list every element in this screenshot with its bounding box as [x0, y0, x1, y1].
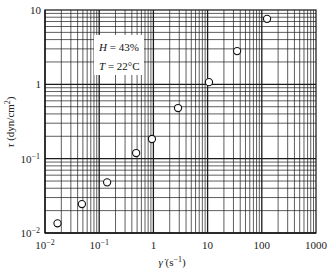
x-tick-label: 10	[202, 239, 214, 251]
x-tick-label: 10−1	[89, 238, 109, 251]
y-tick-label: 1	[36, 78, 42, 90]
x-tick-label: 10−2	[35, 238, 55, 251]
data-points	[54, 15, 271, 227]
data-point-open-circle	[174, 104, 181, 111]
data-point-open-circle	[263, 15, 270, 22]
data-point-open-circle	[104, 179, 111, 186]
x-tick-label: 1	[151, 239, 157, 251]
log-grid	[45, 10, 316, 233]
plot-frame	[45, 10, 316, 233]
data-point-open-circle	[78, 200, 85, 207]
x-axis-label: γ̇ (s−1)	[158, 255, 186, 269]
data-point-open-circle	[54, 220, 61, 227]
annotation-humidity: H = 43%	[98, 41, 139, 53]
data-point-open-circle	[148, 135, 155, 142]
data-point-open-circle	[205, 79, 212, 86]
shear-stress-vs-shear-rate-chart: H = 43% T = 22°C 10−210−11101001000 10−2…	[0, 0, 336, 271]
y-tick-label: 10	[30, 4, 42, 16]
annotation-box: H = 43% T = 22°C	[94, 35, 144, 75]
x-tick-label: 1000	[305, 239, 328, 251]
y-axis-tick-labels: 10−210−1110	[20, 4, 41, 239]
y-axis-label: τ (dyn/cm2)	[3, 96, 17, 147]
x-axis-tick-labels: 10−210−11101001000	[35, 238, 327, 251]
y-tick-label: 10−2	[20, 226, 40, 239]
x-tick-label: 100	[254, 239, 271, 251]
y-tick-label: 10−1	[20, 152, 40, 165]
data-point-open-circle	[133, 149, 140, 156]
annotation-temperature: T = 22°C	[99, 60, 140, 72]
data-point-open-circle	[233, 47, 240, 54]
